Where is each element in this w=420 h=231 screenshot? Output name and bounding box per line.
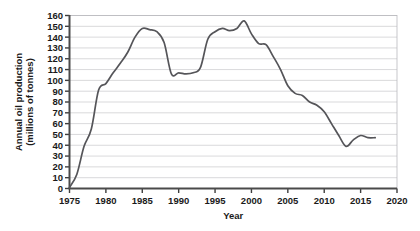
- x-tick-label: 1980: [95, 195, 116, 206]
- y-axis-title-line2: (millions of tonnes): [24, 58, 35, 146]
- y-tick-label: 40: [52, 140, 63, 151]
- x-tick-label: 1990: [168, 195, 189, 206]
- y-tick-label: 20: [52, 161, 63, 172]
- y-axis-tick-labels: 0102030405060708090100110120130140150160: [47, 10, 63, 194]
- y-tick-label: 70: [52, 107, 63, 118]
- x-tick-label: 2000: [241, 195, 262, 206]
- x-axis-title: Year: [223, 210, 243, 221]
- y-tick-label: 0: [58, 183, 63, 194]
- y-tick-label: 60: [52, 118, 63, 129]
- y-tick-label: 80: [52, 96, 63, 107]
- y-tick-label: 50: [52, 129, 63, 140]
- x-tick-label: 1975: [59, 195, 81, 206]
- y-tick-label: 30: [52, 150, 63, 161]
- y-tick-label: 140: [47, 32, 63, 43]
- y-tick-label: 120: [47, 53, 63, 64]
- y-tick-label: 130: [47, 42, 63, 53]
- y-tick-label: 150: [47, 21, 63, 32]
- x-tick-label: 2010: [314, 195, 335, 206]
- x-tick-label: 1995: [204, 195, 226, 206]
- x-tick-label: 1985: [132, 195, 154, 206]
- x-axis-tick-labels: 1975198019851990199520002005201020152020: [59, 195, 408, 206]
- x-tick-label: 2005: [277, 195, 299, 206]
- x-tick-label: 2015: [350, 195, 372, 206]
- y-tick-label: 10: [52, 172, 63, 183]
- oil-production-line-chart: 0102030405060708090100110120130140150160…: [0, 0, 420, 231]
- y-tick-label: 90: [52, 86, 63, 97]
- oil-production-data-line: [70, 21, 376, 188]
- y-axis-title-line1: Annual oil production: [13, 53, 24, 151]
- y-tick-label: 160: [47, 10, 63, 21]
- chart-canvas: 0102030405060708090100110120130140150160…: [0, 0, 420, 231]
- y-tick-label: 110: [48, 64, 63, 75]
- x-tick-label: 2020: [386, 195, 407, 206]
- gridlines: [70, 16, 398, 178]
- y-tick-label: 100: [47, 75, 63, 86]
